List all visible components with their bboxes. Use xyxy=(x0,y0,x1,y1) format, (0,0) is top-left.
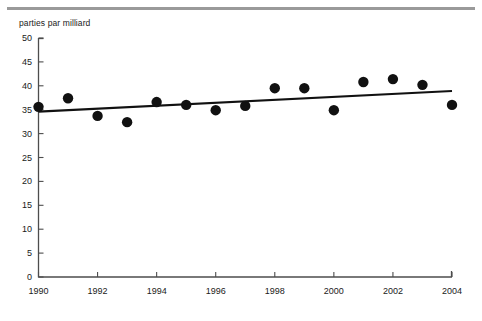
y-tick-label: 30 xyxy=(10,129,32,139)
y-tick-label: 0 xyxy=(10,272,32,282)
data-point xyxy=(92,111,102,121)
y-tick-label: 50 xyxy=(10,33,32,43)
x-tick-label: 2004 xyxy=(431,286,473,296)
y-tick-label: 40 xyxy=(10,81,32,91)
data-point xyxy=(270,83,280,93)
data-point xyxy=(122,117,132,127)
x-tick-label: 1990 xyxy=(18,286,60,296)
data-point xyxy=(447,100,457,110)
data-point xyxy=(388,74,398,84)
x-tick-label: 1996 xyxy=(195,286,237,296)
data-point xyxy=(33,102,43,112)
y-tick-marks xyxy=(39,38,44,277)
data-point xyxy=(299,83,309,93)
data-point xyxy=(358,77,368,87)
data-point xyxy=(151,97,161,107)
data-point xyxy=(211,105,221,115)
x-tick-label: 1998 xyxy=(254,286,296,296)
y-tick-label: 5 xyxy=(10,248,32,258)
y-tick-label: 45 xyxy=(10,57,32,67)
data-point xyxy=(417,80,427,90)
data-point xyxy=(329,105,339,115)
data-point xyxy=(240,101,250,111)
y-tick-label: 20 xyxy=(10,176,32,186)
x-tick-label: 1994 xyxy=(136,286,178,296)
x-tick-label: 2000 xyxy=(313,286,355,296)
y-tick-label: 15 xyxy=(10,200,32,210)
data-point xyxy=(181,100,191,110)
x-tick-label: 1992 xyxy=(77,286,119,296)
data-point xyxy=(63,93,73,103)
chart-figure: parties par milliard 0510152025303540455… xyxy=(0,0,482,321)
x-tick-marks xyxy=(39,272,453,277)
y-tick-label: 25 xyxy=(10,153,32,163)
axes-group xyxy=(39,38,453,278)
x-tick-label: 2002 xyxy=(372,286,414,296)
y-tick-label: 10 xyxy=(10,224,32,234)
y-tick-label: 35 xyxy=(10,105,32,115)
scatter-plot-canvas xyxy=(0,0,482,321)
